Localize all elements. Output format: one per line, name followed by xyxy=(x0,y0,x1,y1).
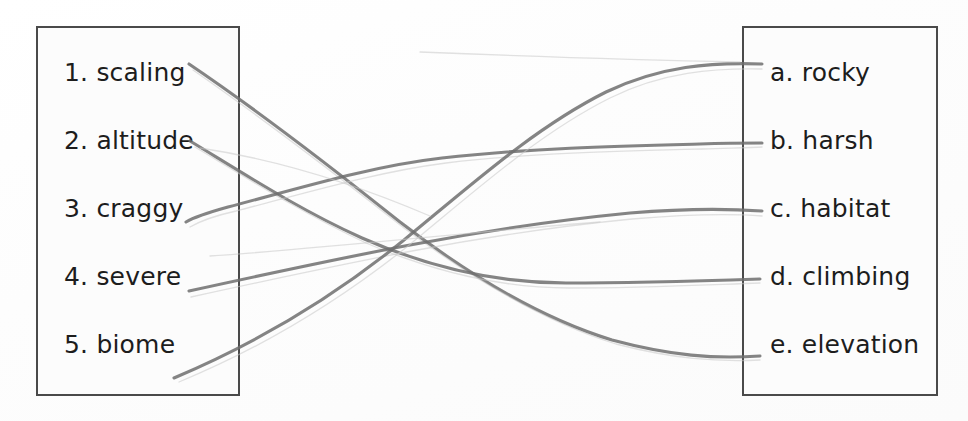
connection-line-biome-to-rocky[interactable] xyxy=(174,64,762,378)
connection-line-altitude-to-climbing-ghost xyxy=(195,147,760,288)
term-item-1[interactable]: 1. scaling xyxy=(38,58,238,87)
connection-line-altitude-to-climbing[interactable] xyxy=(190,141,760,283)
right-definitions-box: a. rocky b. harsh c. habitat d. climbing… xyxy=(742,26,938,396)
stray-pencil-mark-3 xyxy=(420,52,740,62)
definition-item-b[interactable]: b. harsh xyxy=(744,126,936,155)
connection-line-severe-to-habitat-ghost xyxy=(191,215,762,297)
term-item-5[interactable]: 5. biome xyxy=(38,330,238,359)
matching-worksheet: 1. scaling 2. altitude 3. craggy 4. seve… xyxy=(0,0,968,421)
definition-item-c[interactable]: c. habitat xyxy=(744,194,936,223)
definition-item-e[interactable]: e. elevation xyxy=(744,330,936,359)
term-item-3[interactable]: 3. craggy xyxy=(38,194,238,223)
term-item-4[interactable]: 4. severe xyxy=(38,262,238,291)
connection-line-scaling-to-elevation[interactable] xyxy=(189,64,760,357)
connection-line-craggy-to-harsh[interactable] xyxy=(186,143,762,222)
definition-item-d[interactable]: d. climbing xyxy=(744,262,936,291)
connection-line-scaling-to-elevation-ghost xyxy=(193,70,760,361)
connection-line-biome-to-rocky-ghost xyxy=(179,69,762,382)
term-item-2[interactable]: 2. altitude xyxy=(38,126,238,155)
definition-item-a[interactable]: a. rocky xyxy=(744,58,936,87)
connection-line-craggy-to-harsh-ghost xyxy=(190,147,762,227)
stray-pencil-mark-2 xyxy=(210,222,600,256)
connection-line-severe-to-habitat[interactable] xyxy=(189,209,762,291)
left-terms-box: 1. scaling 2. altitude 3. craggy 4. seve… xyxy=(36,26,240,396)
